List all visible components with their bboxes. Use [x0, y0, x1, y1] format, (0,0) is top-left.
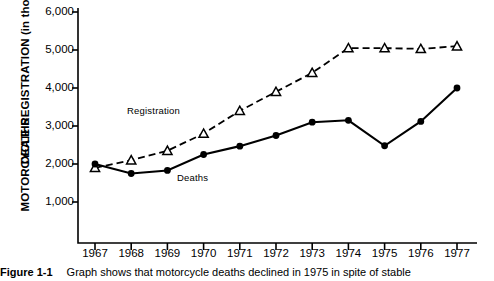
data-point-deaths-1971 [236, 143, 243, 150]
x-axis-tick-labels: 1967196819691970197119721973197419751976… [0, 247, 494, 267]
data-point-deaths-1973 [309, 119, 316, 126]
data-point-registration-1970 [199, 129, 208, 137]
annotation-registration: Registration [127, 105, 180, 116]
figure-number: Figure 1-1 [0, 266, 53, 278]
data-point-deaths-1976 [417, 118, 424, 125]
data-point-deaths-1975 [381, 142, 388, 149]
annotation-deaths: Deaths [177, 172, 208, 183]
y-axis-ticks [72, 12, 78, 202]
axis-frame [78, 8, 477, 243]
data-point-deaths-1969 [164, 167, 171, 174]
series-line-deaths [95, 88, 457, 174]
figure-caption: Figure 1-1Graph shows that motorcycle de… [0, 266, 494, 278]
data-point-deaths-1972 [273, 132, 280, 139]
data-point-registration-1973 [308, 68, 317, 76]
figure-motorcycle-registration-deaths: MOTORCYCLE REGISTRATION (in thousands) D… [0, 0, 494, 281]
data-point-deaths-1977 [454, 85, 461, 92]
data-point-deaths-1974 [345, 117, 352, 124]
figure-caption-text: Graph shows that motorcycle deaths decli… [67, 266, 411, 278]
data-point-registration-1968 [127, 156, 136, 164]
data-point-registration-1971 [235, 106, 244, 114]
data-point-registration-1972 [271, 87, 280, 95]
x-tick-1977: 1977 [435, 247, 479, 259]
data-point-registration-1969 [163, 146, 172, 154]
data-point-deaths-1968 [128, 170, 135, 177]
plot-area [0, 0, 494, 258]
data-point-deaths-1967 [92, 161, 99, 168]
data-point-deaths-1970 [200, 151, 207, 158]
